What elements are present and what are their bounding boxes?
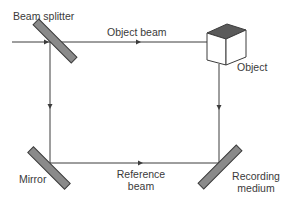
- object-wave-path: [217, 64, 222, 163]
- beam-splitter-icon: [33, 19, 77, 63]
- split-beam-path: [48, 42, 53, 163]
- recording-medium-label: Recording medium: [225, 170, 287, 194]
- input-beam: [12, 40, 50, 45]
- object-beam-label: Object beam: [107, 26, 167, 38]
- object-beam-path: [50, 40, 207, 45]
- mirror-label: Mirror: [19, 173, 46, 185]
- recording-medium-label-line2: medium: [225, 182, 287, 194]
- reference-beam-label-line2: beam: [112, 180, 170, 192]
- reference-beam-path: [50, 161, 219, 166]
- object-label: Object: [237, 61, 267, 73]
- reference-beam-label: Reference beam: [112, 168, 170, 192]
- beam-splitter-label: Beam splitter: [13, 10, 74, 22]
- object-cube-icon: [207, 24, 246, 65]
- reference-beam-label-line1: Reference: [112, 168, 170, 180]
- recording-medium-label-line1: Recording: [225, 170, 287, 182]
